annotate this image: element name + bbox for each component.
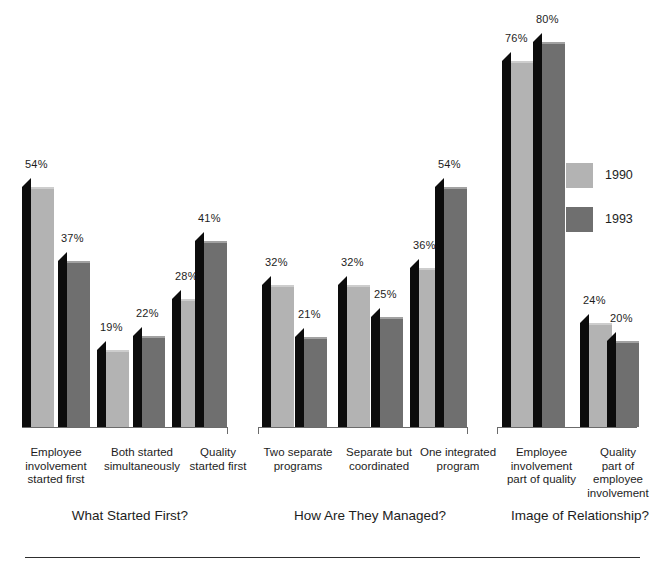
panel-title-how-are-they-managed: How Are They Managed? xyxy=(280,508,460,523)
category-label-line: involvement xyxy=(8,460,104,474)
bar-side-face xyxy=(502,52,511,427)
bar-front-face xyxy=(142,336,165,427)
bar-top-highlight xyxy=(304,337,327,339)
bar-front-face xyxy=(106,350,129,427)
panel-title-what-started-first: What Started First? xyxy=(40,508,220,523)
value-label-1993-employee-involvement-started-first: 37% xyxy=(61,232,84,244)
axis-line-panel-2 xyxy=(258,427,467,428)
bar-front-face xyxy=(67,261,90,427)
bar-front-face xyxy=(542,42,565,427)
category-label-two-separate-programs: Two separate programs xyxy=(250,446,346,473)
bottom-divider-rule xyxy=(25,557,640,558)
value-label-1990-employee-involvement-started-first: 54% xyxy=(25,158,48,170)
category-label-line: Employee xyxy=(8,446,104,460)
grouped-bar-chart: 54% 37% 19% 22% 28% 41% Empl xyxy=(0,0,661,571)
bar-1993-both-started-simultaneously xyxy=(133,327,165,427)
bar-side-face xyxy=(172,290,181,427)
bar-1993-two-separate-programs xyxy=(295,328,327,427)
axis-tick-panel-3-left xyxy=(497,427,498,434)
axis-tick-panel-1-right xyxy=(227,427,228,434)
legend-swatch-1993 xyxy=(566,207,593,232)
value-label-1990-one-integrated-program: 36% xyxy=(413,239,436,251)
bar-side-face xyxy=(58,252,67,427)
value-label-1990-two-separate-programs: 32% xyxy=(265,256,288,268)
category-label-line: started first xyxy=(176,460,260,474)
bar-side-face xyxy=(338,276,347,427)
bar-front-face xyxy=(304,337,327,427)
category-label-line: Quality xyxy=(578,446,658,460)
value-label-1993-one-integrated-program: 54% xyxy=(438,158,461,170)
bar-front-face xyxy=(511,61,534,427)
bar-side-face xyxy=(295,328,304,427)
category-label-line: Quality xyxy=(176,446,260,460)
bar-top-highlight xyxy=(616,341,639,343)
bar-1990-employee-involvement-part-of-quality xyxy=(502,52,534,427)
bar-front-face xyxy=(616,341,639,427)
bar-top-highlight xyxy=(204,241,227,243)
category-label-line: part of xyxy=(578,460,658,474)
bar-1990-both-started-simultaneously xyxy=(97,341,129,427)
bar-top-highlight xyxy=(380,317,403,319)
value-label-1990-quality-part-of-employee-involvement: 24% xyxy=(583,294,606,306)
bar-front-face xyxy=(347,285,370,427)
bar-top-highlight xyxy=(589,323,612,325)
bar-1990-employee-involvement-started-first xyxy=(22,178,54,427)
bar-side-face xyxy=(371,308,380,427)
category-label-line: Two separate xyxy=(250,446,346,460)
category-label-quality-part-of-employee-involvement: Quality part of employee involvement xyxy=(578,446,658,500)
bar-1990-separate-but-coordinated xyxy=(338,276,370,427)
bar-side-face xyxy=(580,314,589,427)
value-label-1990-employee-involvement-part-of-quality: 76% xyxy=(505,32,528,44)
panel-title-image-of-relationship: Image of Relationship? xyxy=(500,508,660,523)
bar-side-face xyxy=(607,332,616,427)
bar-1993-quality-started-first xyxy=(195,232,227,427)
bar-top-highlight xyxy=(67,261,90,263)
category-label-line: programs xyxy=(250,460,346,474)
bar-1993-employee-involvement-started-first xyxy=(58,252,90,427)
bar-1993-quality-part-of-employee-involvement xyxy=(607,332,639,427)
bar-top-highlight xyxy=(511,61,534,63)
bar-top-highlight xyxy=(347,285,370,287)
category-label-line: involvement xyxy=(578,487,658,501)
bar-side-face xyxy=(410,259,419,427)
bar-side-face xyxy=(533,33,542,427)
value-label-1993-employee-involvement-part-of-quality: 80% xyxy=(536,13,559,25)
axis-line-panel-1 xyxy=(22,427,227,428)
value-label-1993-both-started-simultaneously: 22% xyxy=(136,307,159,319)
bar-front-face xyxy=(31,187,54,427)
legend-label-1990: 1990 xyxy=(605,168,633,182)
bar-side-face xyxy=(97,341,106,427)
category-label-line: employee xyxy=(578,473,658,487)
bar-1990-two-separate-programs xyxy=(262,276,294,427)
category-label-line: started first xyxy=(8,473,104,487)
legend-label-1993: 1993 xyxy=(605,212,633,226)
value-label-1993-quality-started-first: 41% xyxy=(198,212,221,224)
bar-top-highlight xyxy=(31,187,54,189)
bar-front-face xyxy=(444,187,467,427)
axis-tick-panel-2-left xyxy=(258,427,259,434)
bar-1993-employee-involvement-part-of-quality xyxy=(533,33,565,427)
bar-side-face xyxy=(262,276,271,427)
bar-front-face xyxy=(204,241,227,427)
bar-front-face xyxy=(271,285,294,427)
bar-top-highlight xyxy=(106,350,129,352)
value-label-1990-separate-but-coordinated: 32% xyxy=(341,256,364,268)
bar-top-highlight xyxy=(444,187,467,189)
bar-top-highlight xyxy=(142,336,165,338)
bar-side-face xyxy=(195,232,204,427)
category-label-employee-involvement-started-first: Employee involvement started first xyxy=(8,446,104,487)
bar-top-highlight xyxy=(542,42,565,44)
bar-1993-one-integrated-program xyxy=(435,178,467,427)
bar-front-face xyxy=(380,317,403,427)
axis-tick-panel-2-right xyxy=(467,427,468,434)
value-label-1993-quality-part-of-employee-involvement: 20% xyxy=(610,312,633,324)
value-label-1993-two-separate-programs: 21% xyxy=(298,308,321,320)
bar-side-face xyxy=(133,327,142,427)
legend-swatch-1990 xyxy=(566,163,593,188)
value-label-1990-both-started-simultaneously: 19% xyxy=(100,321,123,333)
bar-1993-separate-but-coordinated xyxy=(371,308,403,427)
bar-side-face xyxy=(22,178,31,427)
value-label-1993-separate-but-coordinated: 25% xyxy=(374,288,397,300)
bar-side-face xyxy=(435,178,444,427)
bar-top-highlight xyxy=(271,285,294,287)
